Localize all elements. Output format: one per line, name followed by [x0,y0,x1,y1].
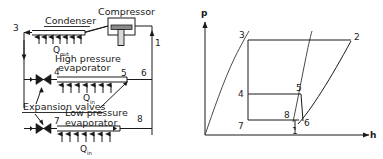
state-point-5: 5 [121,68,127,78]
ph-point-7: 7 [238,121,244,131]
state-point-6: 6 [141,68,147,78]
q-out-arrows [39,37,81,44]
leader-to-state-6 [100,83,126,108]
ph-point-6: 6 [304,118,310,128]
ph-point-8: 8 [284,110,290,120]
ph-point-3: 3 [239,30,245,40]
lp-q-in-arrows [62,134,110,142]
expansion-valve-high [36,75,51,85]
lp-q-in-subscript: in [87,150,93,156]
expansion-valve-high-right-triangle [44,75,52,85]
compressor-label: Compressor [98,6,155,17]
x-axis-label: h [370,130,376,140]
ph-diagram-svg: p h 3 2 [191,0,383,159]
compressor-rod [118,30,124,46]
condenser-group: Condenser Q out [32,15,96,57]
process-1-to-2 [298,41,351,124]
ph-point-4: 4 [238,89,244,99]
hp-q-in-arrows [63,85,111,93]
state-point-3: 3 [13,23,19,33]
refrigeration-schematic-panel: Condenser Q out Compres [0,0,191,159]
pipe-lp-inlet-arrowhead [30,126,33,131]
state-point-1: 1 [155,38,161,48]
pipe-right-arrowhead [150,30,155,36]
ph-diagram-panel: p h 3 2 [191,0,383,159]
pipe-hp-inlet-arrowhead [30,77,33,82]
state-point-7: 7 [54,116,60,126]
low-pressure-evaporator-group: Low pressure evaporator Q in [24,107,152,156]
figure-container: Condenser Q out Compres [0,0,383,159]
leader-to-valve-high-head [39,87,44,93]
state-point-8: 8 [137,114,143,124]
schematic-svg: Condenser Q out Compres [0,0,191,159]
process-5-to-6 [301,94,303,121]
high-pressure-evaporator-group: High pressure evaporator Q in [24,53,152,105]
hp-evaporator-label-line2: evaporator [58,62,110,73]
pipe-left-arrowhead [22,54,27,60]
condenser-label: Condenser [45,15,96,26]
compressor-piston [111,25,132,30]
ph-point-2: 2 [354,32,360,42]
expansion-valve-high-left-triangle [36,75,44,85]
state-point-4: 4 [54,67,60,77]
condenser-coil [32,31,85,36]
y-axis-label: p [201,8,208,18]
ph-point-5: 5 [296,83,302,93]
saturated-liquid-line [205,31,249,135]
ph-point-1: 1 [292,126,298,136]
hp-evaporator-coil [57,77,127,82]
